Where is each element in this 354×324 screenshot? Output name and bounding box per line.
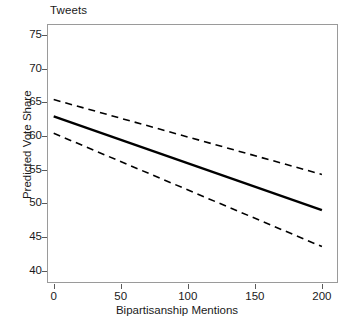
x-axis-tick-label: 50	[101, 291, 141, 303]
x-axis-tick-label: 0	[34, 291, 74, 303]
y-axis-tick-label: 75	[29, 29, 42, 41]
x-axis-tick-label: 100	[168, 291, 208, 303]
chart-data-layer	[47, 24, 338, 283]
x-axis-tick-label: 150	[235, 291, 275, 303]
x-axis-tick-mark	[188, 284, 189, 289]
x-axis-label: Bipartisanship Mentions	[0, 305, 354, 317]
x-axis-tick-mark	[255, 284, 256, 289]
y-axis-tick-label: 40	[29, 265, 42, 277]
x-axis-tick-mark	[322, 284, 323, 289]
x-axis-tick-mark	[54, 284, 55, 289]
chart-figure: Tweets 4045505560657075 050100150200 Bip…	[0, 0, 354, 324]
y-axis-label: Predicted Vote Share	[22, 55, 34, 235]
chart-title: Tweets	[50, 4, 87, 16]
x-axis-tick-label: 200	[302, 291, 342, 303]
chart-line	[54, 133, 322, 246]
x-axis-tick-mark	[121, 284, 122, 289]
chart-line	[54, 116, 322, 210]
